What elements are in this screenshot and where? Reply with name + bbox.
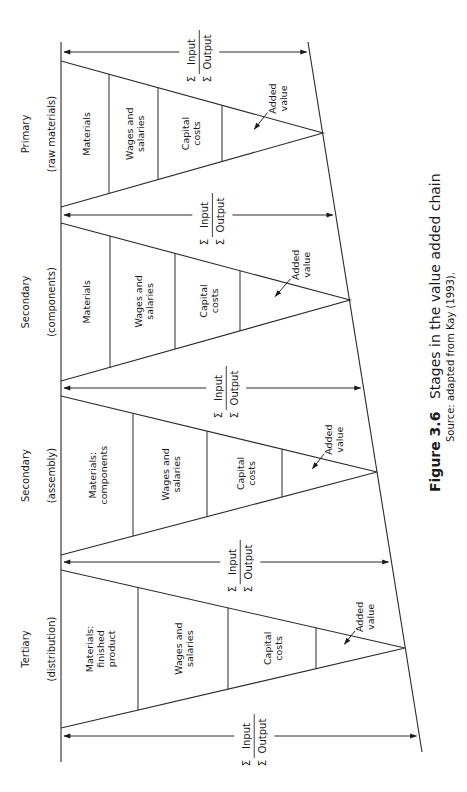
- wages-label: Wages andsalaries: [160, 448, 182, 500]
- sigma-symbol: Σ: [186, 76, 197, 82]
- figure-caption: Figure 3.6 Stages in the value added cha…: [427, 173, 456, 492]
- stage-qualifier: (components): [46, 267, 57, 337]
- flow-arrow-3: ΣInputΣOutput: [64, 366, 361, 418]
- sigma-symbol: Σ: [243, 586, 254, 592]
- stage-qualifier: (raw materials): [46, 96, 57, 172]
- sigma-symbol: Σ: [213, 412, 224, 418]
- flow-arrow-1: ΣInputΣOutput: [64, 30, 307, 82]
- sigma-symbol: Σ: [215, 239, 226, 245]
- added-value-label: Addedvalue: [354, 602, 376, 632]
- stage-qualifier: (assembly): [46, 448, 57, 503]
- materials-label: Materials: [81, 112, 92, 156]
- added-value-arrow: [275, 279, 290, 297]
- input-label: Input: [241, 723, 252, 749]
- input-label: Input: [213, 375, 224, 401]
- stage-triangle-2: MaterialsWages andsalariesCapitalcostsAd…: [20, 223, 351, 381]
- output-label: Output: [202, 35, 213, 70]
- wages-label: Wages andsalaries: [133, 275, 155, 327]
- added-value-label: Addedvalue: [290, 250, 312, 280]
- output-label: Output: [215, 198, 226, 233]
- sigma-symbol: Σ: [199, 239, 210, 245]
- added-value-arrow: [312, 454, 324, 469]
- flow-arrow-4: ΣInputΣOutput: [64, 540, 388, 592]
- stage-name: Secondary: [20, 275, 31, 328]
- capital-costs-label: Capitalcosts: [235, 457, 257, 490]
- caption-title-text: Stages in the value added chain: [427, 173, 443, 399]
- added-value-label: Addedvalue: [323, 425, 345, 455]
- sigma-symbol: Σ: [257, 760, 268, 766]
- input-label: Input: [186, 39, 197, 65]
- caption-figure-number: Figure 3.6: [427, 412, 443, 492]
- right-slant-line: [308, 42, 422, 752]
- output-label: Output: [257, 719, 268, 754]
- added-value-label: Addedvalue: [267, 83, 289, 113]
- stage-triangle-3: Materials:componentsWages andsalariesCap…: [20, 396, 378, 555]
- materials-label: Materials:finishedproduct: [84, 626, 117, 673]
- sigma-symbol: Σ: [202, 76, 213, 82]
- stage-name: Secondary: [20, 449, 31, 502]
- stage-name: Tertiary: [20, 630, 31, 669]
- sigma-input-output-label: ΣInputΣOutput: [227, 540, 254, 592]
- capital-costs-label: Capitalcosts: [198, 284, 220, 317]
- flow-arrow-5: ΣInputΣOutput: [64, 714, 416, 766]
- sigma-input-output-label: ΣInputΣOutput: [186, 30, 213, 82]
- value-added-chain-figure: MaterialsWages andsalariesCapitalcostsAd…: [0, 0, 467, 792]
- input-label: Input: [199, 202, 210, 228]
- materials-label: Materials:components: [87, 446, 109, 505]
- flow-arrow-2: ΣInputΣOutput: [64, 193, 333, 245]
- wages-label: Wages andsalaries: [124, 108, 146, 160]
- materials-label: Materials: [81, 280, 92, 324]
- diagram-canvas: MaterialsWages andsalariesCapitalcostsAd…: [0, 0, 467, 792]
- output-label: Output: [243, 545, 254, 580]
- stage-triangle-1: MaterialsWages andsalariesCapitalcostsAd…: [20, 61, 324, 207]
- capital-costs-label: Capitalcosts: [180, 117, 202, 150]
- sigma-symbol: Σ: [227, 586, 238, 592]
- stage-triangle-4: Materials:finishedproductWages andsalari…: [20, 570, 406, 728]
- input-label: Input: [227, 549, 238, 575]
- sigma-input-output-label: ΣInputΣOutput: [241, 714, 268, 766]
- sigma-input-output-label: ΣInputΣOutput: [213, 366, 240, 418]
- stage-triangles: MaterialsWages andsalariesCapitalcostsAd…: [20, 61, 406, 728]
- stage-name: Primary: [20, 115, 31, 154]
- sigma-symbol: Σ: [241, 760, 252, 766]
- stage-qualifier: (distribution): [46, 617, 57, 682]
- wages-label: Wages andsalaries: [173, 622, 195, 674]
- sigma-symbol: Σ: [229, 412, 240, 418]
- capital-costs-label: Capitalcosts: [262, 632, 284, 665]
- output-label: Output: [229, 371, 240, 406]
- caption-title: Figure 3.6 Stages in the value added cha…: [427, 173, 443, 492]
- added-value-arrow: [344, 631, 354, 644]
- sigma-input-output-label: ΣInputΣOutput: [199, 193, 226, 245]
- caption-source: Source: adapted from Kay (1993).: [445, 272, 456, 442]
